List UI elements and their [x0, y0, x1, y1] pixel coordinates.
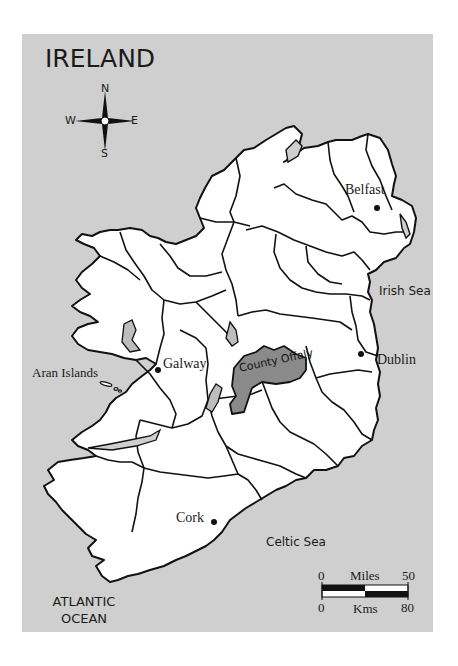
- scale-miles-label: Miles: [350, 568, 380, 584]
- atlantic-ocean-label: ATLANTIC OCEAN: [44, 593, 124, 627]
- compass-rose: [75, 91, 135, 151]
- celtic-sea-label: Celtic Sea: [266, 535, 326, 549]
- compass-south-label: S: [101, 147, 108, 160]
- aran-islands-shapes: [100, 381, 122, 392]
- belfast-marker[interactable]: [374, 205, 380, 211]
- irish-sea-label: Irish Sea: [379, 284, 431, 298]
- belfast-label: Belfast: [345, 182, 385, 198]
- scale-miles-start: 0: [318, 568, 325, 584]
- cork-marker[interactable]: [211, 519, 217, 525]
- ireland-map: [0, 0, 458, 666]
- compass-west-label: W: [65, 114, 76, 127]
- map-title: IRELAND: [45, 44, 155, 73]
- atlantic-ocean-line2: OCEAN: [44, 610, 124, 627]
- scale-kms-label: Kms: [353, 601, 378, 617]
- galway-marker[interactable]: [155, 367, 161, 373]
- scale-kms-end: 80: [401, 600, 414, 616]
- compass-east-label: E: [131, 114, 138, 127]
- cork-label: Cork: [176, 510, 204, 526]
- dublin-label: Dublin: [377, 352, 416, 368]
- scale-kms-start: 0: [318, 600, 325, 616]
- scale-bar: [322, 582, 408, 600]
- dublin-marker[interactable]: [358, 351, 364, 357]
- compass-north-label: N: [101, 82, 109, 95]
- scale-miles-end: 50: [402, 568, 415, 584]
- aran-islands-label: Aran Islands: [32, 365, 98, 381]
- atlantic-ocean-line1: ATLANTIC: [44, 593, 124, 610]
- galway-label: Galway: [163, 356, 207, 372]
